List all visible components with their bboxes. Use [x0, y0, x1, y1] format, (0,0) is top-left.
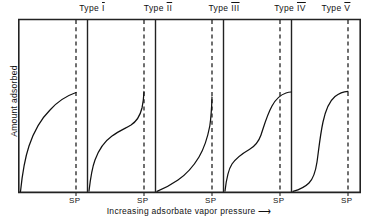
curve-type-i: [21, 93, 77, 192]
isotherm-plot-area: [0, 0, 369, 221]
y-axis-label: Amount adsorbed: [9, 41, 19, 161]
curve-type-v: [293, 91, 348, 191]
curve-type-iii: [157, 97, 212, 191]
sp-label-3: SP: [205, 196, 216, 205]
curve-type-ii: [89, 92, 144, 192]
sp-label-5: SP: [341, 196, 352, 205]
isotherm-figure: Type I Type II Type III Type IV Type V: [0, 0, 369, 221]
right-arrow-icon: ⟶: [258, 206, 271, 216]
x-axis-label-text: Increasing adsorbate vapor pressure: [107, 206, 256, 216]
x-axis-label: Increasing adsorbate vapor pressure ⟶: [44, 206, 334, 216]
sp-label-4: SP: [273, 196, 284, 205]
sp-label-1: SP: [69, 196, 80, 205]
sp-label-2: SP: [137, 196, 148, 205]
curve-type-iv: [225, 92, 291, 191]
